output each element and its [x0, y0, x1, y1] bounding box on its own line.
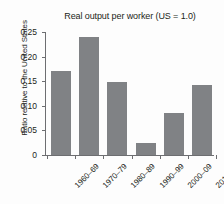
x-tick-label: 1960–69 [73, 162, 101, 190]
y-tick-mark: 0.25 [42, 32, 45, 33]
x-tick-label: 1980–89 [129, 162, 157, 190]
y-tick-label: 0.25 [20, 27, 37, 37]
x-tick-mark [47, 155, 48, 159]
x-tick-mark [216, 155, 217, 159]
bar [192, 85, 212, 155]
x-tick-label: 2000–09 [186, 162, 214, 190]
x-tick-label: 1970–79 [101, 162, 129, 190]
y-tick-label: 0.10 [20, 101, 37, 111]
bar-chart: Real output per worker (US = 1.0) Ratio … [0, 0, 224, 204]
x-tick-mark [160, 155, 161, 159]
y-tick-mark: 0 [42, 155, 45, 156]
y-tick-mark: 0.20 [42, 57, 45, 58]
y-tick-mark: 0.05 [42, 130, 45, 131]
x-tick-mark [75, 155, 76, 159]
bar [164, 113, 184, 155]
x-tick-mark [103, 155, 104, 159]
bar [107, 82, 127, 155]
bar [51, 71, 71, 155]
plot-area: 00.050.100.150.200.25 1960–691970–791980… [45, 32, 214, 155]
y-tick-label: 0.15 [20, 76, 37, 86]
x-tick-label: 1990–99 [158, 162, 186, 190]
y-axis-line [45, 32, 46, 155]
y-tick-label: 0.05 [20, 125, 37, 135]
bar [79, 37, 99, 155]
y-tick-label: 0 [32, 150, 37, 160]
y-tick-label: 0.20 [20, 52, 37, 62]
x-tick-mark [188, 155, 189, 159]
y-tick-mark: 0.15 [42, 81, 45, 82]
bar [136, 143, 156, 155]
x-tick-label: 2010–17 [214, 162, 224, 190]
x-tick-mark [132, 155, 133, 159]
y-tick-mark: 0.10 [42, 106, 45, 107]
chart-title: Real output per worker (US = 1.0) [40, 11, 220, 21]
